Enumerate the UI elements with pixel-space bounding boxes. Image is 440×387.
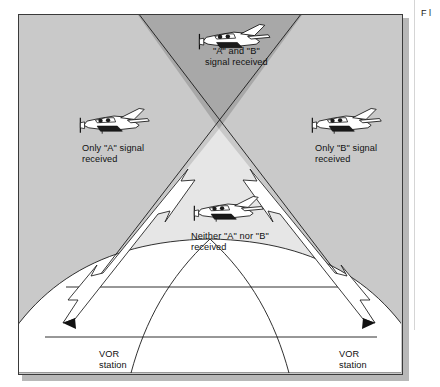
window-fore (212, 207, 216, 211)
window-fore (330, 119, 334, 123)
label-neither-signal: Neither "A" nor "B" received (191, 231, 269, 254)
label-only-b-signal: Only "B" signal received (315, 143, 377, 166)
window-aft (220, 206, 224, 210)
label-vor-station-a: VOR station "A" (99, 349, 127, 375)
window-fore (98, 119, 102, 123)
label-both-signals: "A" and "B" signal received (205, 46, 268, 69)
label-only-a-signal: Only "A" signal received (82, 143, 144, 166)
window-aft (226, 34, 230, 38)
margin-clipped-text: F l (421, 8, 440, 19)
spinner (194, 210, 198, 217)
figure-frame: "A" and "B" signal received Only "A" sig… (18, 14, 403, 375)
spinner (199, 38, 203, 45)
page-canvas: "A" and "B" signal received Only "A" sig… (0, 0, 440, 387)
spinner (80, 122, 84, 129)
window-fore (218, 35, 222, 39)
window-aft (338, 118, 342, 122)
margin-column-rule (414, 0, 415, 330)
label-vor-station-b: VOR station "B" (339, 349, 367, 375)
window-aft (106, 118, 110, 122)
spinner (312, 122, 316, 129)
